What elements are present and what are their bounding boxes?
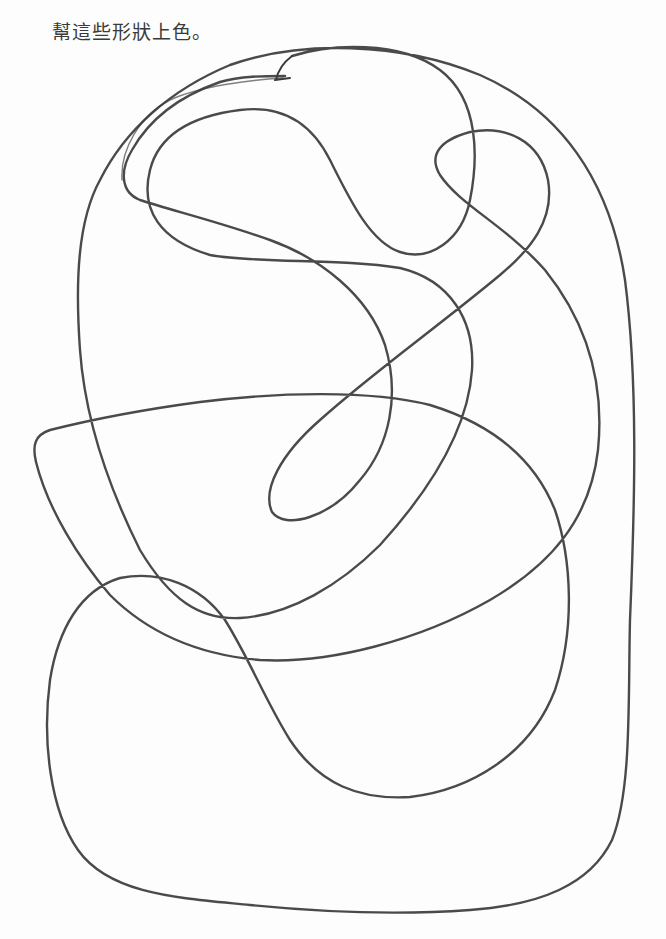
scribble-drawing[interactable] <box>0 0 666 939</box>
scribble-line[interactable] <box>34 47 634 912</box>
coloring-worksheet: 幫這些形狀上色。 <box>0 0 666 939</box>
